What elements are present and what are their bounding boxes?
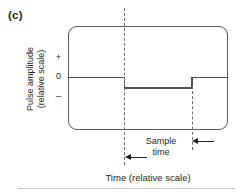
waveform-segment-baseline-right bbox=[191, 77, 228, 79]
y-tick-label-minus: – bbox=[52, 92, 65, 101]
arrow-shaft bbox=[197, 141, 214, 142]
waveform-segment-baseline-left bbox=[68, 77, 125, 79]
panel-label: (c) bbox=[8, 9, 23, 21]
arrow-shaft bbox=[130, 157, 147, 158]
sample-time-label-line-1: Sample bbox=[133, 136, 189, 147]
dashed-marker-sample-start bbox=[124, 8, 125, 165]
bottom-divider bbox=[18, 188, 235, 189]
y-axis-title: Pulse amplitude (relative scale) bbox=[21, 28, 49, 130]
waveform-segment-low-level bbox=[124, 87, 193, 89]
y-tick-label-plus: + bbox=[52, 53, 65, 62]
y-axis-title-text: Pulse amplitude (relative scale) bbox=[25, 47, 46, 111]
x-axis-title: Time (relative scale) bbox=[68, 172, 228, 183]
y-tick-label-zero: 0 bbox=[52, 72, 65, 81]
y-axis-title-line-2: (relative scale) bbox=[35, 47, 46, 111]
sample-time-arrow-right bbox=[192, 138, 214, 145]
sample-time-arrow-left bbox=[125, 154, 147, 161]
figure-panel-c: (c) Pulse amplitude (relative scale) + 0… bbox=[0, 0, 245, 195]
y-axis-title-line-1: Pulse amplitude bbox=[25, 47, 36, 111]
